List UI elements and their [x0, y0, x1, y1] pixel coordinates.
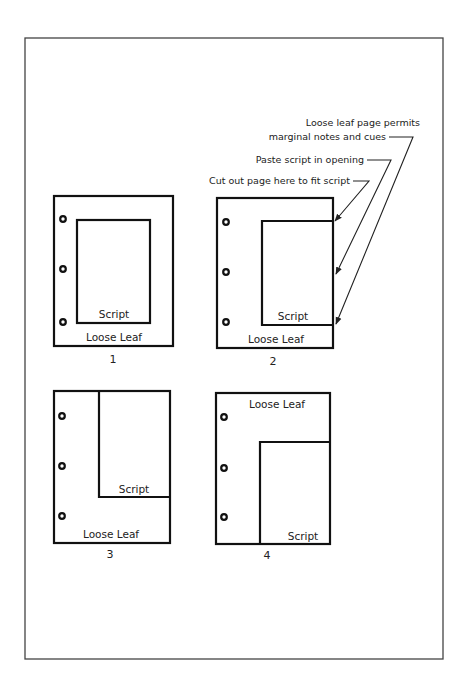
diagram-number: 2	[270, 355, 277, 368]
leader-marginal	[336, 137, 413, 324]
diagram-number: 3	[107, 548, 114, 561]
diagram-3: Script Loose Leaf 3	[54, 391, 170, 561]
diagram-4: Script Loose Leaf 4	[216, 393, 330, 562]
diagram-1: Script Loose Leaf 1	[54, 196, 173, 366]
script-label: Script	[119, 483, 149, 495]
loose-leaf-label: Loose Leaf	[249, 398, 305, 410]
figure-canvas: Loose leaf page permits marginal notes a…	[0, 0, 466, 694]
loose-leaf-label: Loose Leaf	[83, 528, 139, 540]
loose-leaf-label: Loose Leaf	[86, 331, 142, 343]
diagram-number: 4	[264, 549, 271, 562]
loose-leaf-label: Loose Leaf	[248, 333, 304, 345]
callout-marginal-line2: marginal notes and cues	[269, 131, 386, 142]
diagram-2: Script Loose Leaf 2	[217, 198, 333, 368]
script-label: Script	[278, 310, 308, 322]
callout-cutout-text: Cut out page here to fit script	[209, 175, 350, 186]
script-label: Script	[288, 530, 318, 542]
callout-paste-text: Paste script in opening	[256, 154, 364, 165]
loose-leaf-page	[54, 391, 170, 543]
diagram-number: 1	[110, 353, 117, 366]
callout-marginal-line1: Loose leaf page permits	[306, 117, 420, 128]
loose-leaf-page	[216, 393, 330, 544]
script-label: Script	[99, 308, 129, 320]
